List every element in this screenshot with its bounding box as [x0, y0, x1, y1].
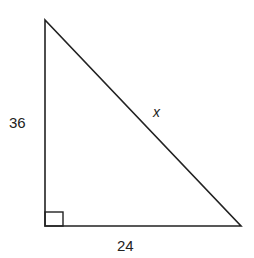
triangle-outline	[45, 20, 241, 226]
horizontal-leg-label: 24	[117, 238, 134, 253]
right-triangle-diagram	[0, 0, 254, 258]
right-angle-marker	[45, 212, 63, 226]
vertical-leg-label: 36	[9, 115, 26, 130]
hypotenuse-label: x	[153, 105, 160, 119]
